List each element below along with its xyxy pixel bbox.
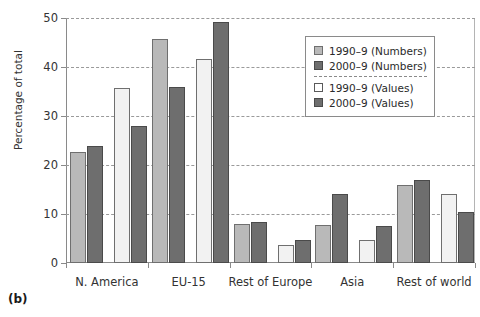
x-axis-tick [393,263,394,268]
legend-item-1: 2000–9 (Numbers) [314,58,427,73]
legend-item-3: 2000–9 (Values) [314,95,427,110]
bar [169,87,185,263]
y-axis-tick [61,165,66,166]
legend-label: 1990–9 (Numbers) [329,45,427,57]
bar [114,88,130,263]
plot-right-border [474,18,475,263]
bar [376,226,392,263]
y-axis-tick-label: 0 [51,256,58,270]
bar [251,222,267,263]
y-axis-tick [61,116,66,117]
legend-item-2: 1990–9 (Values) [314,80,427,95]
bar [458,212,474,263]
x-axis-tick [148,263,149,268]
bar [196,59,212,263]
bar [295,240,311,263]
bar [234,224,250,263]
y-axis-tick-label: 30 [43,109,58,123]
gridline [66,18,475,19]
chart-figure: Percentage of total 01020304050 N. Ameri… [0,0,480,317]
chart-legend: 1990–9 (Numbers) 2000–9 (Numbers) 1990–9… [305,36,435,117]
y-axis-tick-label: 40 [43,60,58,74]
x-axis-tick [475,263,476,268]
y-axis-tick [61,67,66,68]
bar [441,194,457,263]
x-axis-tick-label: Rest of Europe [229,275,313,289]
x-axis-tick-label: N. America [75,275,138,289]
y-axis-tick [61,214,66,215]
bar [414,180,430,263]
legend-swatch-icon [314,46,323,55]
legend-item-0: 1990–9 (Numbers) [314,43,427,58]
y-axis-tick-label: 20 [43,158,58,172]
x-axis-tick [311,263,312,268]
legend-swatch-icon [314,61,323,70]
bar [152,39,168,263]
panel-label: (b) [8,292,28,306]
y-axis-tick [61,18,66,19]
bar [87,146,103,263]
legend-label: 2000–9 (Values) [329,97,414,109]
x-axis-tick-label: Asia [340,275,364,289]
y-axis-tick-label: 10 [43,207,58,221]
bar [70,152,86,263]
x-axis-tick [230,263,231,268]
x-axis-tick-label: Rest of world [397,275,472,289]
y-axis-line [66,18,67,263]
legend-label: 2000–9 (Numbers) [329,60,427,72]
bar [213,22,229,263]
x-axis-tick-label: EU-15 [171,275,205,289]
legend-divider [314,76,427,77]
bar [397,185,413,263]
y-axis-title: Percentage of total [12,50,24,150]
bar [315,225,331,263]
y-axis-tick-label: 50 [43,11,58,25]
bar [332,194,348,263]
legend-swatch-icon [314,98,323,107]
bar [131,126,147,263]
legend-label: 1990–9 (Values) [329,82,414,94]
bar [278,245,294,263]
bar [359,240,375,263]
x-axis-tick [66,263,67,268]
legend-swatch-icon [314,83,323,92]
